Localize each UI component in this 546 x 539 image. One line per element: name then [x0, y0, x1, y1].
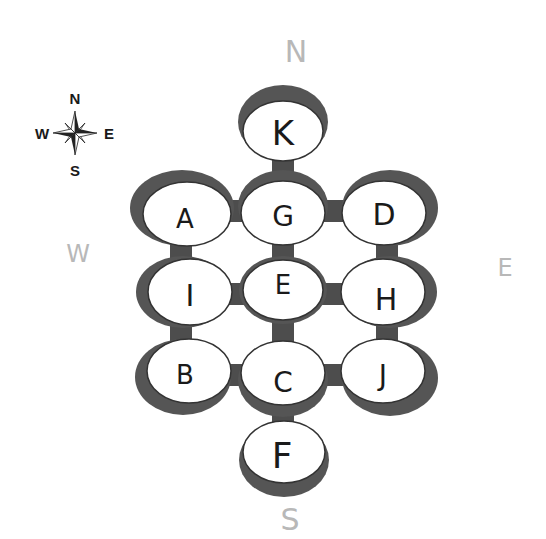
node-a-label: A	[176, 204, 194, 234]
direction-label-south: S	[280, 502, 299, 537]
node-k-label: K	[272, 113, 296, 153]
node-i[interactable]: I	[136, 256, 232, 328]
direction-label-east: E	[497, 254, 512, 282]
node-h-label: H	[375, 282, 398, 317]
node-i-label: I	[186, 278, 195, 313]
node-f[interactable]: F	[239, 421, 329, 497]
compass-rose-icon	[53, 111, 97, 155]
node-g-label: G	[272, 200, 294, 233]
node-h[interactable]: H	[341, 256, 437, 328]
node-e[interactable]: E	[239, 256, 327, 324]
node-j-label: J	[377, 359, 387, 392]
node-j[interactable]: J	[341, 339, 438, 416]
node-b[interactable]: B	[135, 339, 231, 415]
compass-west-letter: W	[35, 125, 50, 142]
node-f-label: F	[272, 435, 293, 476]
direction-label-north: N	[285, 34, 307, 69]
direction-label-west: W	[66, 240, 90, 268]
compass-north-letter: N	[70, 90, 81, 107]
compass-east-letter: E	[104, 125, 114, 142]
room-map-diagram: K A G D I E H B	[0, 0, 546, 539]
node-b-label: B	[176, 360, 194, 390]
node-d-label: D	[372, 197, 395, 232]
node-d[interactable]: D	[342, 170, 438, 246]
node-c[interactable]: C	[238, 341, 328, 417]
compass-south-letter: S	[70, 162, 80, 179]
node-e-label: E	[275, 270, 291, 300]
node-k[interactable]: K	[238, 85, 328, 161]
node-g[interactable]: G	[238, 170, 328, 245]
node-a[interactable]: A	[130, 170, 234, 246]
node-c-label: C	[273, 366, 293, 399]
